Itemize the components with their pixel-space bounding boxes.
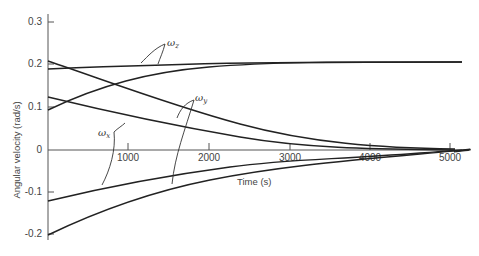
y-tick-label: 0 [36,144,42,155]
y-axis-title: Angular velocity (rad/s) [11,101,22,198]
y-tick-label: 0.1 [28,101,42,112]
x-axis-title: Time (s) [237,176,271,187]
series-omega-z-lower [48,62,462,110]
svg-text:ωy: ωy [195,92,208,105]
chart-canvas: 0.3 0.2 0.1 0 -0.1 -0.2 1000 2000 3000 4… [0,0,479,256]
y-ticks: 0.3 0.2 0.1 0 -0.1 -0.2 [25,16,54,239]
y-tick-label: -0.2 [25,228,43,239]
x-tick-label: 1000 [117,152,140,163]
svg-text:ωx: ωx [98,127,110,140]
y-tick-label: 0.3 [28,16,42,27]
y-tick-label: -0.1 [25,186,43,197]
x-tick-label: 5000 [439,152,462,163]
annotation-omega-z: ωz [141,37,179,64]
curves [48,61,470,235]
svg-text:ωz: ωz [167,37,179,50]
y-tick-label: 0.2 [28,58,42,69]
series-omega-z-upper [48,62,462,69]
x-ticks: 1000 2000 3000 4000 5000 [117,143,462,163]
x-tick-label: 2000 [198,152,221,163]
series-omega-x-positive [48,97,455,150]
